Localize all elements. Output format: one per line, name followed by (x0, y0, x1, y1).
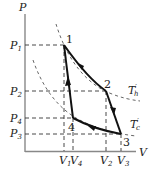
p3-label: P3 (9, 127, 22, 141)
p2-label: P2 (9, 85, 22, 99)
arrow-3-4-icon (88, 126, 96, 131)
p1-label: P1 (9, 39, 22, 53)
v2-label: V2 (100, 154, 113, 168)
point-4-label: 4 (68, 121, 75, 134)
v4-label: V4 (70, 154, 82, 168)
pv-diagram: P V P1 P2 P4 P3 V1 V4 V2 V3 1 2 3 4 T′h … (0, 0, 151, 173)
v3-label: V3 (117, 154, 130, 168)
point-1-label: 1 (66, 33, 73, 46)
th-label: T′h (128, 83, 138, 98)
point-2-label: 2 (104, 78, 111, 91)
tc-label: T′c (130, 117, 140, 132)
arrow-4-1-icon (65, 76, 71, 86)
p4-label: P4 (9, 112, 22, 126)
point-3-label: 3 (123, 136, 130, 149)
x-axis-label: V (139, 146, 148, 159)
y-axis-label: P (18, 1, 27, 14)
